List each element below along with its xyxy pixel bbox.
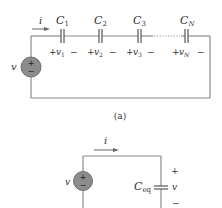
c3-label: C3 [133,14,146,28]
svg-text:−: − [28,67,35,76]
voltage-source-icon: + − [21,57,41,77]
current-arrow-icon [32,27,50,31]
svg-text:−: − [147,47,155,57]
svg-text:−: − [172,198,180,208]
output-voltage-label: + v − [171,166,180,208]
current-arrow-icon [94,148,119,152]
capacitor-c2 [99,29,102,43]
svg-text:vN: vN [179,47,190,58]
source-label: v [11,61,17,72]
capacitor-c3 [138,29,141,43]
svg-text:−: − [109,47,117,57]
v3-label: + v3 − [126,47,155,58]
svg-text:v3: v3 [133,47,142,58]
source-label-b: v [65,177,70,187]
ceq-label: Ceq [134,180,152,194]
svg-text:−: − [80,181,87,190]
v1-label: + v1 − [49,47,78,58]
svg-text:−: − [70,47,78,57]
c2-label: C2 [94,14,107,28]
c1-label: C1 [56,14,69,28]
vn-label: + vN − [172,47,205,58]
caption-a: (a) [114,111,126,121]
cn-label: CN [180,14,195,28]
capacitor-ceq [154,186,168,189]
svg-text:−: − [197,47,205,57]
series-capacitors-diagram: i C1 C2 C3 CN + v1 − + v2 − + v3 − + vN … [0,0,222,208]
circuit-a: i C1 C2 C3 CN + v1 − + v2 − + v3 − + vN … [11,14,210,121]
current-label-b: i [104,135,107,146]
circuit-b: i + − v Ceq + v − [65,135,180,208]
svg-text:v1: v1 [56,47,65,58]
v2-label: + v2 − [87,47,117,58]
capacitor-c1 [61,29,64,43]
current-label: i [39,15,42,26]
voltage-source-icon: + − [74,172,93,191]
capacitor-cn [185,29,188,43]
svg-text:v: v [172,182,177,192]
svg-text:v2: v2 [94,47,103,58]
svg-text:+: + [171,166,179,176]
